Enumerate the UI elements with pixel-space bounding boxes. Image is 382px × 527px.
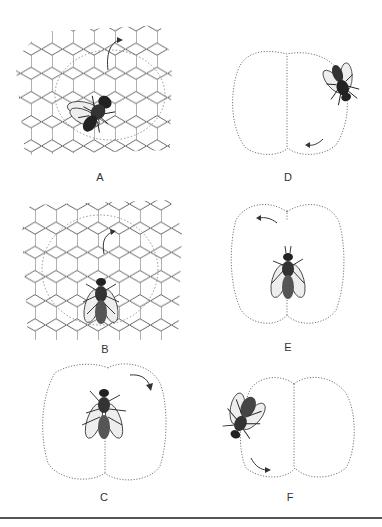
panel-label-d: D [278, 171, 298, 183]
panel-label-c: C [94, 491, 114, 503]
panel-label-b: B [95, 343, 115, 355]
panel-f: F [191, 358, 382, 516]
bottom-rule-divider [0, 517, 382, 519]
fly-illustration-b [81, 278, 121, 324]
panel-a: A [0, 0, 191, 190]
figure-eight-outline-e [191, 190, 382, 358]
honeycomb-grid-b [0, 190, 191, 358]
panel-c: C [0, 358, 191, 516]
fly-illustration-c [82, 389, 126, 440]
panel-d: D [191, 0, 382, 190]
panel-e: E [191, 190, 382, 358]
figure-eight-outline-d [191, 0, 382, 190]
panel-label-f: F [280, 491, 300, 503]
panel-label-e: E [278, 341, 298, 353]
panel-b: B [0, 190, 191, 358]
fly-illustration-d [318, 59, 364, 108]
fly-illustration-f [216, 389, 271, 447]
fly-illustration-e [268, 246, 308, 299]
honeycomb-grid-a [0, 0, 191, 190]
panel-label-a: A [90, 171, 110, 183]
